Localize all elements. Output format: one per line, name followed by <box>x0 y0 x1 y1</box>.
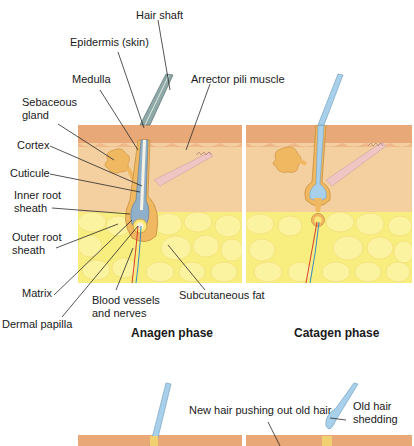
label-medulla: Medulla <box>72 73 111 85</box>
label-arrector-pili: Arrector pili muscle <box>191 73 285 85</box>
catagen-panel <box>246 125 414 283</box>
label-new-hair: New hair pushing out old hair <box>189 404 332 416</box>
label-dermal-papilla: Dermal papilla <box>2 318 73 330</box>
label-hair-shaft: Hair shaft <box>136 9 183 21</box>
catagen-hair-shaft <box>318 74 343 125</box>
label-subcutaneous-fat: Subcutaneous fat <box>179 289 265 301</box>
anagen-panel <box>78 125 243 283</box>
label-inner-root-1: Inner root <box>14 189 61 201</box>
title-anagen: Anagen phase <box>131 326 213 340</box>
label-cortex: Cortex <box>17 139 50 151</box>
hair-growth-diagram: Hair shaft Epidermis (skin) Medulla Arre… <box>0 0 414 446</box>
label-sebaceous-1: Sebaceous <box>22 96 78 108</box>
label-old-hair-2: shedding <box>353 413 398 425</box>
label-outer-root-2: sheath <box>12 244 45 256</box>
label-sebaceous-2: gland <box>22 109 49 121</box>
title-catagen: Catagen phase <box>294 326 380 340</box>
label-matrix: Matrix <box>22 287 52 299</box>
label-blood-2: and nerves <box>92 307 147 319</box>
label-blood-1: Blood vessels <box>92 294 160 306</box>
label-inner-root-2: sheath <box>14 202 47 214</box>
label-old-hair-1: Old hair <box>353 400 392 412</box>
anagen-hair-shaft <box>140 74 173 125</box>
label-cuticle: Cuticule <box>10 167 50 179</box>
label-outer-root-1: Outer root <box>12 231 62 243</box>
label-epidermis: Epidermis (skin) <box>70 36 149 48</box>
